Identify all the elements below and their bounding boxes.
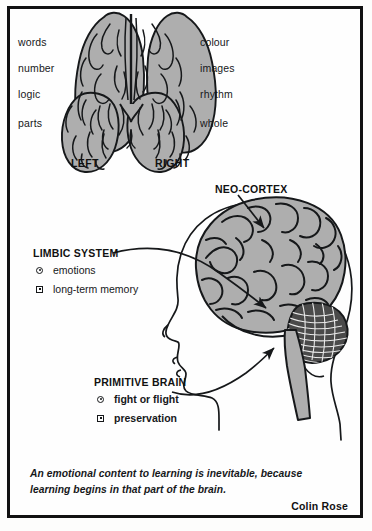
quote-text: An emotional content to learning is inev… [30,466,335,498]
right-trait-2: rhythm [200,89,233,100]
right-trait-0: colour [200,37,230,48]
left-trait-3: parts [18,118,42,129]
callout-primitive-title: PRIMITIVE BRAIN [94,376,186,388]
limbic-item-0-label: emotions [53,264,96,276]
circle-dot-icon [36,267,43,274]
hemisphere-caption-left: LEFT [71,157,99,169]
figure-page: words number logic parts colour images r… [0,0,372,531]
square-dot-icon [36,286,43,293]
primitive-item-1: preservation [97,412,177,424]
limbic-item-1: long-term memory [36,283,138,295]
primitive-item-0: fight or flight [97,393,179,405]
callout-limbic-title: LIMBIC SYSTEM [33,247,119,259]
right-trait-3: whole [200,118,228,129]
left-trait-0: words [18,37,47,48]
left-trait-1: number [18,63,55,74]
limbic-item-0: emotions [36,264,96,276]
limbic-item-1-label: long-term memory [53,283,138,295]
left-trait-2: logic [18,89,40,100]
right-trait-1: images [200,63,235,74]
primitive-item-0-label: fight or flight [114,393,179,405]
figure-frame [7,6,363,518]
callout-neocortex-title: NEO-CORTEX [215,183,288,195]
quote-attribution: Colin Rose [291,500,348,512]
circle-dot-icon [97,396,104,403]
square-dot-icon [97,415,104,422]
hemisphere-caption-right: RIGHT [155,157,190,169]
primitive-item-1-label: preservation [114,412,177,424]
